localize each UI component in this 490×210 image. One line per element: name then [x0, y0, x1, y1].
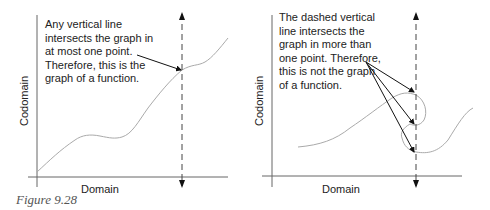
arrowhead-up-icon — [179, 12, 185, 20]
right-y-axis-label: Codomain — [253, 76, 265, 126]
annotation-line: at most one point. — [45, 45, 153, 59]
annotation-line: intersects the graph in — [45, 32, 153, 46]
annotation-line: The dashed vertical — [279, 11, 381, 25]
left-x-axis-label: Domain — [81, 183, 119, 196]
annotation-line: line intersects the — [279, 25, 381, 39]
arrowhead-down-icon — [179, 180, 185, 188]
left-annotation: Any vertical line intersects the graph i… — [45, 18, 153, 86]
arrowhead-up-icon — [413, 12, 419, 20]
annotation-line: Therefore, this is the — [45, 59, 153, 73]
annotation-line: graph of a function. — [45, 72, 153, 86]
non-function-curve — [298, 93, 473, 153]
annotation-line: this is not the graph — [279, 65, 381, 79]
left-y-axis-label: Codomain — [18, 76, 30, 126]
annotation-line: one point. Therefore, — [279, 52, 381, 66]
annotation-line: of a function. — [279, 79, 381, 93]
arrowhead-down-icon — [413, 180, 419, 188]
annotation-line: graph in more than — [279, 38, 381, 52]
right-x-axis-label: Domain — [322, 183, 360, 196]
annotation-line: Any vertical line — [45, 18, 153, 32]
right-annotation: The dashed vertical line intersects the … — [279, 11, 381, 92]
figure-caption: Figure 9.28 — [16, 192, 77, 208]
